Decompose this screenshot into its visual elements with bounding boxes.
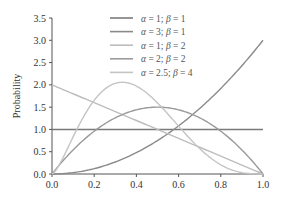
y-tick-label: 0.0: [34, 169, 47, 180]
beta-distribution-chart: 0.00.51.01.52.02.53.03.50.00.20.40.60.81…: [0, 0, 283, 202]
y-tick-label: 3.5: [34, 13, 47, 24]
x-tick-label: 0.0: [46, 179, 59, 190]
legend-label: α = 1; β = 2: [141, 41, 186, 51]
legend: α = 1; β = 1α = 3; β = 1α = 1; β = 2α = …: [110, 14, 193, 78]
legend-item: α = 2; β = 2: [110, 54, 186, 64]
y-tick-label: 0.5: [34, 146, 47, 157]
x-tick-label: 0.2: [88, 179, 101, 190]
x-tick-label: 0.6: [172, 179, 185, 190]
y-tick-label: 2.0: [34, 79, 47, 90]
legend-item: α = 1; β = 1: [110, 14, 186, 24]
legend-item: α = 2.5; β = 4: [110, 68, 193, 78]
y-axis-label: Probability: [11, 74, 22, 118]
y-tick-label: 1.0: [34, 124, 47, 135]
x-tick-label: 1.0: [257, 179, 270, 190]
legend-item: α = 1; β = 2: [110, 41, 186, 51]
legend-label: α = 1; β = 1: [141, 14, 186, 24]
y-tick-label: 1.5: [34, 102, 47, 113]
legend-item: α = 3; β = 1: [110, 27, 186, 37]
y-tick-label: 2.5: [34, 57, 47, 68]
x-tick-label: 0.4: [130, 179, 143, 190]
legend-label: α = 3; β = 1: [141, 27, 186, 37]
y-tick-label: 3.0: [34, 35, 47, 46]
axes: 0.00.51.01.52.02.53.03.50.00.20.40.60.81…: [34, 13, 270, 191]
legend-label: α = 2; β = 2: [141, 54, 186, 64]
legend-label: α = 2.5; β = 4: [141, 68, 193, 78]
x-tick-label: 0.8: [215, 179, 228, 190]
